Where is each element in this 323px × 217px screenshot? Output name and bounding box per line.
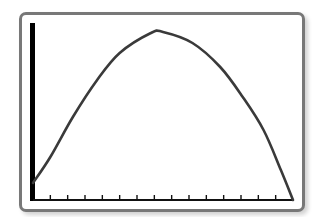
parabola-curve: [33, 31, 293, 200]
graph-plot: [0, 0, 323, 217]
y-axis-bar: [30, 23, 35, 201]
